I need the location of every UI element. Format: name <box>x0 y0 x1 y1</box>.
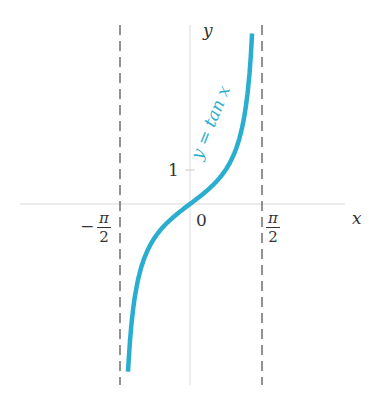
denominator: 2 <box>268 229 278 245</box>
denominator: 2 <box>99 229 109 245</box>
pi-symbol: π <box>268 210 278 226</box>
tan-graph: y x 0 1 − π 2 π 2 y = tan x <box>0 0 380 414</box>
y-tick-label-1: 1 <box>168 160 179 180</box>
x-axis-label: x <box>352 208 362 228</box>
minus-sign: − <box>80 216 94 236</box>
plot-area <box>0 0 380 414</box>
pi-over-2-label: π 2 <box>266 210 280 245</box>
pi-symbol: π <box>99 210 109 226</box>
y-axis-label: y <box>203 20 213 40</box>
origin-label: 0 <box>196 210 207 230</box>
neg-pi-over-2-label: π 2 <box>97 210 111 245</box>
